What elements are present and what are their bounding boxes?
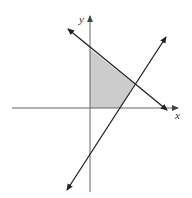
coordinate-plane: y x: [0, 0, 192, 198]
shaded-feasible-region: [90, 49, 134, 108]
y-axis-label: y: [78, 13, 84, 25]
increasing-line-lower: [67, 114, 116, 190]
x-axis-label: x: [174, 109, 180, 121]
